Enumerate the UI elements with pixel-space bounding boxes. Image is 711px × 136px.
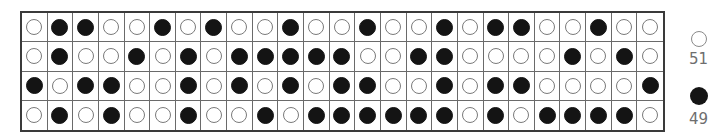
- black-circle-icon: [180, 77, 197, 94]
- white-circle-icon: [231, 107, 247, 123]
- grid-cell: [330, 72, 356, 101]
- black-circle-icon: [77, 19, 94, 36]
- black-circle-icon: [282, 77, 299, 94]
- grid-cell: [227, 42, 253, 71]
- black-circle-icon: [513, 19, 530, 36]
- black-circle-icon: [539, 107, 556, 124]
- grid-cell: [227, 13, 253, 42]
- grid-cell: [612, 72, 638, 101]
- dot-grid: [20, 11, 665, 132]
- grid-cell: [73, 101, 99, 130]
- black-circle-icon: [26, 77, 43, 94]
- grid-cell: [560, 42, 586, 71]
- grid-cell: [509, 42, 535, 71]
- grid-cell: [381, 72, 407, 101]
- white-circle-icon: [78, 48, 94, 64]
- white-circle-icon: [642, 107, 658, 123]
- black-circle-icon: [564, 48, 581, 65]
- white-circle-icon: [565, 19, 581, 35]
- white-circle-icon: [411, 78, 427, 94]
- grid-cell: [509, 101, 535, 130]
- grid-cell: [458, 13, 484, 42]
- white-circle-icon: [180, 19, 196, 35]
- white-count: 51: [689, 51, 708, 67]
- black-circle-icon: [205, 19, 222, 36]
- white-circle-icon: [539, 48, 555, 64]
- black-circle-icon: [564, 107, 581, 124]
- grid-cell: [535, 101, 561, 130]
- grid-cell: [253, 42, 279, 71]
- white-circle-icon: [691, 31, 707, 47]
- black-circle-icon: [257, 107, 274, 124]
- white-circle-icon: [206, 78, 222, 94]
- grid-cell: [355, 72, 381, 101]
- white-circle-icon: [283, 107, 299, 123]
- grid-cell: [278, 101, 304, 130]
- white-circle-icon: [513, 107, 529, 123]
- grid-cell: [150, 42, 176, 71]
- grid-cell: [612, 42, 638, 71]
- black-circle-icon: [282, 19, 299, 36]
- black-circle-icon: [180, 48, 197, 65]
- grid-cell: [176, 101, 202, 130]
- white-circle-icon: [308, 19, 324, 35]
- black-circle-icon: [642, 77, 659, 94]
- grid-cell: [432, 101, 458, 130]
- white-circle-icon: [231, 19, 247, 35]
- grid-cell: [381, 13, 407, 42]
- grid-cell: [48, 72, 74, 101]
- white-circle-icon: [385, 48, 401, 64]
- black-circle-icon: [128, 48, 145, 65]
- white-circle-icon: [257, 78, 273, 94]
- grid-cell: [637, 72, 663, 101]
- grid-cell: [330, 101, 356, 130]
- grid-cell: [432, 13, 458, 42]
- white-circle-icon: [616, 19, 632, 35]
- white-circle-icon: [642, 19, 658, 35]
- black-circle-icon: [590, 19, 607, 36]
- black-circle-icon: [359, 19, 376, 36]
- grid-cell: [125, 72, 151, 101]
- grid-cell: [22, 101, 48, 130]
- white-circle-icon: [462, 78, 478, 94]
- grid-cell: [355, 13, 381, 42]
- grid-cell: [99, 101, 125, 130]
- white-circle-icon: [206, 107, 222, 123]
- grid-cell: [458, 72, 484, 101]
- white-circle-icon: [103, 19, 119, 35]
- black-circle-icon: [231, 48, 248, 65]
- grid-cell: [150, 101, 176, 130]
- black-circle-icon: [436, 19, 453, 36]
- grid-cell: [586, 42, 612, 71]
- black-circle-icon: [103, 77, 120, 94]
- white-circle-icon: [539, 78, 555, 94]
- grid-cell: [612, 101, 638, 130]
- black-circle-icon: [308, 48, 325, 65]
- grid-cell: [99, 72, 125, 101]
- grid-cell: [176, 42, 202, 71]
- black-circle-icon: [282, 48, 299, 65]
- grid-cell: [560, 101, 586, 130]
- white-circle-icon: [565, 78, 581, 94]
- black-circle-icon: [487, 19, 504, 36]
- black-circle-icon: [333, 77, 350, 94]
- grid-cell: [176, 72, 202, 101]
- grid-cell: [304, 13, 330, 42]
- grid-cell: [125, 42, 151, 71]
- grid-cell: [407, 13, 433, 42]
- grid-cell: [201, 72, 227, 101]
- white-circle-icon: [26, 48, 42, 64]
- grid-cell: [586, 72, 612, 101]
- grid-cell: [535, 72, 561, 101]
- black-circle-icon: [308, 107, 325, 124]
- grid-cell: [355, 101, 381, 130]
- grid-cell: [125, 13, 151, 42]
- grid-cell: [509, 13, 535, 42]
- black-circle-icon: [690, 87, 708, 105]
- grid-cell: [304, 101, 330, 130]
- black-circle-icon: [154, 19, 171, 36]
- legend: 51 49: [686, 0, 711, 136]
- grid-cell: [176, 13, 202, 42]
- grid-cell: [73, 72, 99, 101]
- black-circle-icon: [436, 77, 453, 94]
